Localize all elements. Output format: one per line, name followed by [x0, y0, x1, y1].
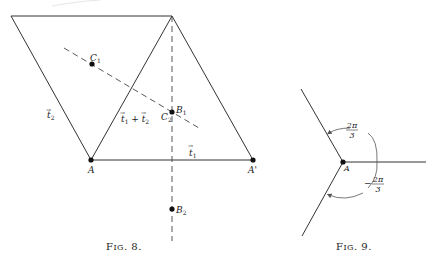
point-B1-C2 [169, 109, 174, 114]
figure-8: A A' C1 B1 C2 B2 → t2 → t1 → → t1 + t2 F… [11, 0, 257, 252]
edge-t2 [11, 16, 91, 160]
diagram-canvas: A A' C1 B1 C2 B2 → t2 → t1 → → t1 + t2 F… [0, 0, 438, 268]
label-B1: B1 [175, 105, 186, 116]
label-vector-t1-plus-t2: → → t1 + t2 [120, 109, 149, 125]
svg-text:−: − [364, 178, 372, 188]
right-edge [172, 16, 253, 160]
label-C1: C1 [90, 53, 101, 64]
label-A-fig9: A [343, 164, 350, 173]
point-A-prime [250, 157, 255, 162]
scan-smudge [52, 0, 100, 6]
label-angle-plus-2pi-over-3: 2π 3 [346, 121, 358, 140]
figure-9: A 2π 3 − 2π 3 FIG. 9. [301, 89, 426, 252]
point-A [88, 157, 93, 162]
svg-text:3: 3 [375, 185, 380, 194]
svg-text:2π: 2π [346, 121, 358, 130]
svg-text:2π: 2π [372, 175, 384, 184]
svg-text:t1: t1 [189, 148, 196, 159]
ray-lower-left [302, 162, 343, 236]
label-vector-t2: → t2 [46, 106, 55, 121]
label-A: A [87, 165, 95, 175]
edge-t1-plus-t2 [91, 16, 172, 160]
label-vector-t1: → t1 [188, 142, 196, 159]
arc-upper-lower-part [368, 133, 377, 162]
svg-text:3: 3 [349, 131, 354, 140]
ray-upper-left [301, 89, 343, 162]
caption-fig-8: FIG. 8. [106, 241, 142, 252]
label-B2: B2 [175, 205, 187, 216]
caption-fig-9: FIG. 9. [336, 241, 372, 252]
label-A-prime: A' [247, 165, 257, 175]
point-B2 [169, 206, 174, 211]
label-angle-minus-2pi-over-3: − 2π 3 [364, 175, 384, 194]
svg-text:t1 + t2: t1 + t2 [121, 114, 149, 125]
arc-lower-arrow [329, 193, 363, 198]
